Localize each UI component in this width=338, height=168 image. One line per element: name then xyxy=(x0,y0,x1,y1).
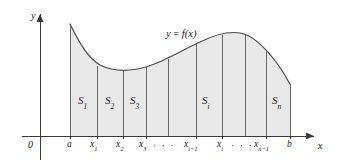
origin-label: 0 xyxy=(28,140,33,150)
region-label-Si: Si xyxy=(202,95,210,109)
region-label-Sn-sub: n xyxy=(278,102,282,111)
x-axis-label: x xyxy=(318,141,322,151)
region-label-Si-base: S xyxy=(202,94,208,106)
curve-equation-label: y = f(x) xyxy=(166,29,196,40)
tick-label-xi-sub: i xyxy=(221,145,223,152)
tick-label-b-base: b xyxy=(287,139,292,149)
tick-label-xi-minus-1: xi−1 xyxy=(184,140,198,151)
tick-label-a-base: a xyxy=(67,139,72,149)
region-label-Sn: Sn xyxy=(272,95,281,109)
tick-label-x2: x2 xyxy=(116,140,123,151)
region-label-S2-sub: 2 xyxy=(111,102,115,111)
region-label-S3: S3 xyxy=(130,95,139,109)
tick-label-x3-sub: 3 xyxy=(143,145,146,152)
region-label-Sn-base: S xyxy=(272,94,278,106)
tick-label-a: a xyxy=(67,140,72,151)
tick-label-xi-minus-1-sub: i−1 xyxy=(188,145,197,152)
tick-label-x1: x1 xyxy=(90,140,97,151)
region-label-S1: S1 xyxy=(78,95,87,109)
tick-label-xn-minus-1-sub: n−1 xyxy=(258,145,269,152)
region-label-S1-base: S xyxy=(78,94,84,106)
ellipsis-right: · · · xyxy=(231,141,253,151)
tick-label-xn-minus-1: xn−1 xyxy=(254,140,269,151)
region-label-S2: S2 xyxy=(105,95,114,109)
y-axis xyxy=(37,14,44,160)
tick-label-x1-sub: 1 xyxy=(94,145,97,152)
curve-label-fx: f(x) xyxy=(182,28,197,39)
tick-label-xi: xi xyxy=(217,140,223,151)
tick-label-x3: x3 xyxy=(139,140,146,151)
region-label-Si-sub: i xyxy=(208,102,210,111)
curve-label-equals: = xyxy=(171,28,182,39)
x-axis-arrowhead xyxy=(306,133,314,140)
tick-label-x2-sub: 2 xyxy=(120,145,123,152)
region-label-S3-base: S xyxy=(130,94,136,106)
tick-label-b: b xyxy=(287,140,292,151)
y-axis-label: y xyxy=(31,11,35,21)
region-label-S3-sub: 3 xyxy=(136,102,140,111)
riemann-sum-figure: y x 0 y = f(x) a x1 x2 x3 xi−1 xi xn−1 b… xyxy=(0,0,338,168)
region-label-S1-sub: 1 xyxy=(84,102,88,111)
region-label-S2-base: S xyxy=(105,94,111,106)
y-axis-arrowhead xyxy=(37,14,44,22)
ellipsis-left: · · · xyxy=(153,141,175,151)
